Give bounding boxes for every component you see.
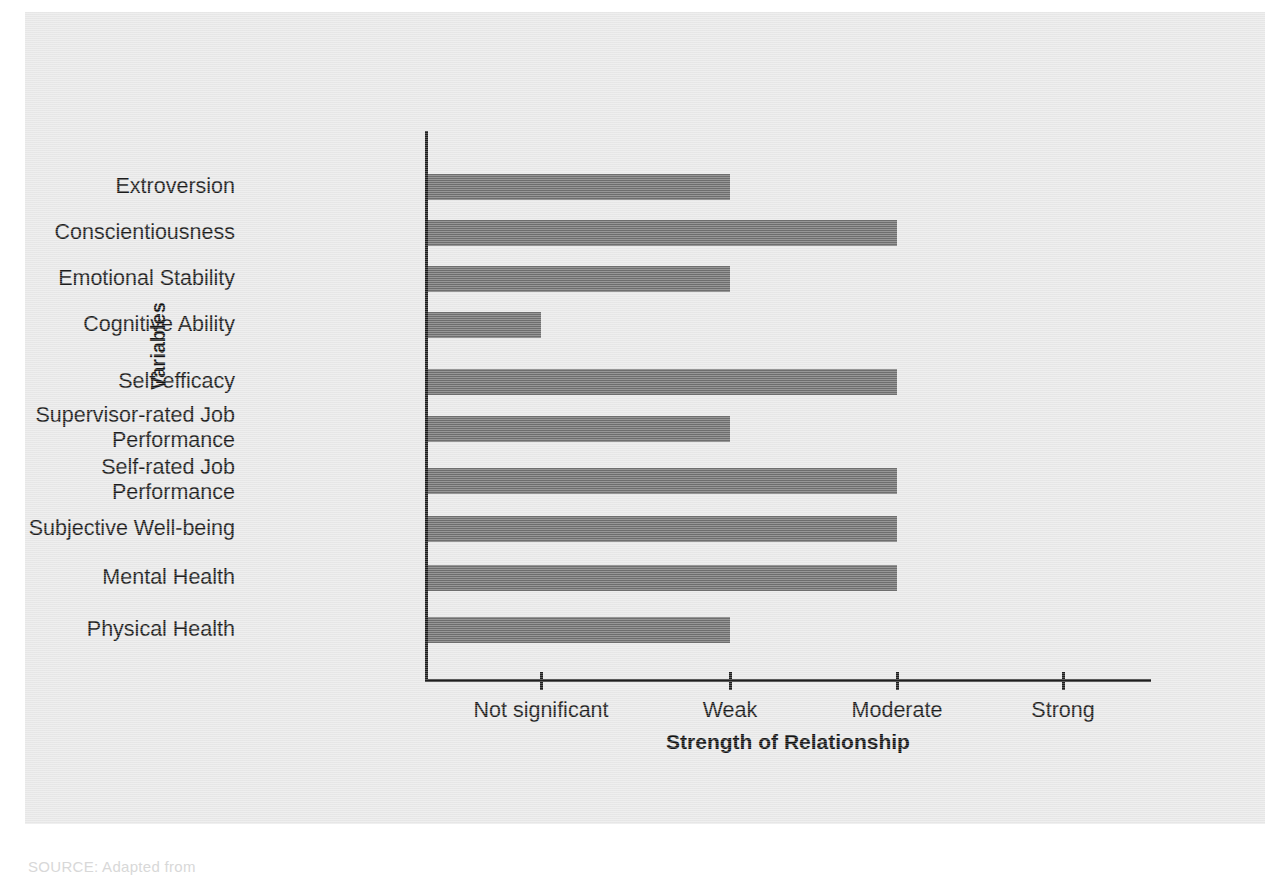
x-tick-mark — [1062, 672, 1065, 690]
x-tick-label: Weak — [703, 698, 758, 723]
x-tick-label: Moderate — [852, 698, 943, 723]
source-note: SOURCE: Adapted from — [28, 858, 196, 876]
x-axis-title: Strength of Relationship — [425, 730, 1151, 754]
x-tick-label: Not significant — [473, 698, 608, 723]
x-tick-mark — [896, 672, 899, 690]
bar-chart: ExtroversionConscientiousnessEmotional S… — [25, 12, 1265, 824]
x-tick-mark — [729, 672, 732, 690]
x-tick-mark — [540, 672, 543, 690]
figure-panel: ExtroversionConscientiousnessEmotional S… — [25, 12, 1265, 824]
y-axis-title: Variables — [147, 302, 170, 390]
x-tick-label: Strong — [1031, 698, 1094, 723]
x-axis-ticks: Not significantWeakModerateStrong — [25, 12, 1265, 824]
